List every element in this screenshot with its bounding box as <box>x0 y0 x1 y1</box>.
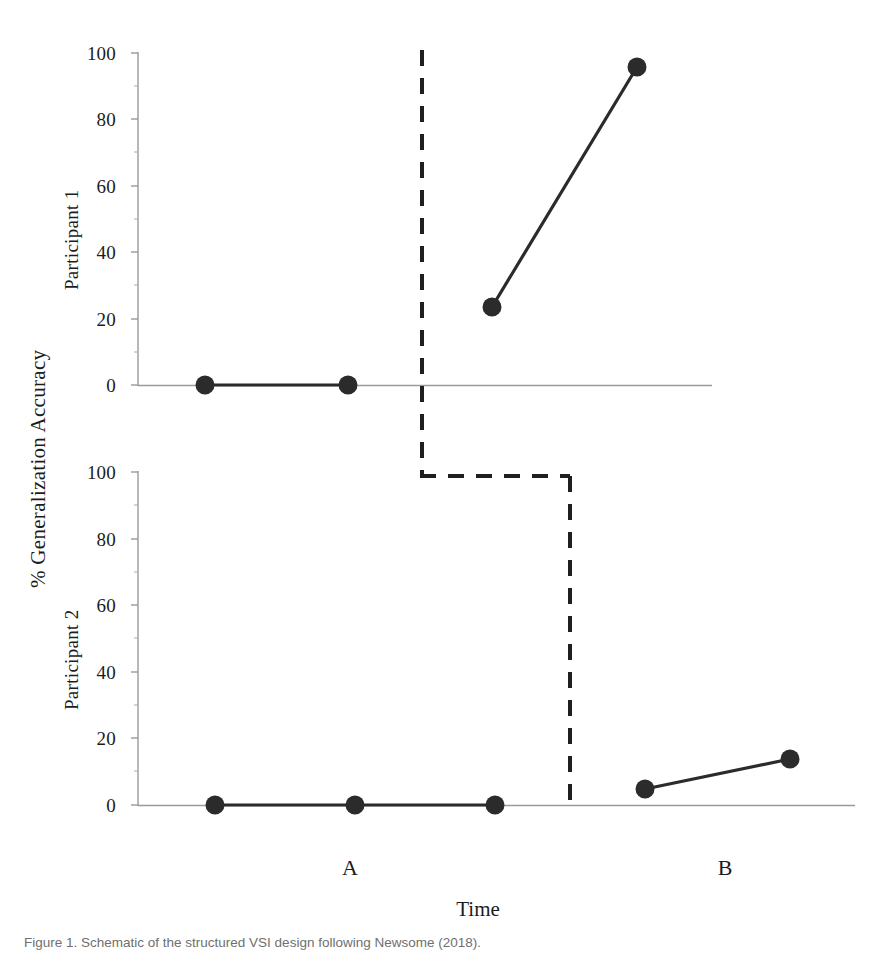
panel-title-participant-1: Participant 1 <box>62 190 81 290</box>
phase-change-line <box>420 50 570 806</box>
y-tick-p2-100: 100 <box>70 463 116 482</box>
y-tick-p2-80: 80 <box>70 530 116 549</box>
data-point-p2-a2 <box>346 796 365 815</box>
y-tick-p1-0: 0 <box>70 376 116 395</box>
y-tick-p1-100: 100 <box>70 44 116 63</box>
data-point-p2-a1 <box>206 796 225 815</box>
data-point-p1-b2 <box>628 58 647 77</box>
y-tick-p1-20: 20 <box>70 310 116 329</box>
data-point-p2-a3 <box>486 796 505 815</box>
data-line-p2-phase-b <box>645 759 790 789</box>
data-point-p2-b2 <box>781 750 800 769</box>
data-point-p2-b1 <box>636 780 655 799</box>
panel-participant-2 <box>131 471 855 815</box>
y-tick-p2-20: 20 <box>70 729 116 748</box>
x-axis-title: Time <box>428 899 528 920</box>
data-point-p1-a1 <box>196 376 215 395</box>
chart-canvas <box>0 0 892 959</box>
y-tick-p2-0: 0 <box>70 796 116 815</box>
phase-label-b: B <box>705 857 745 878</box>
phase-label-a: A <box>330 857 370 878</box>
data-point-p1-b1 <box>483 298 502 317</box>
figure-root: 100 80 60 40 20 0 100 80 60 40 20 0 Part… <box>0 0 892 959</box>
y-tick-p1-80: 80 <box>70 110 116 129</box>
figure-caption: Figure 1. Schematic of the structured VS… <box>24 934 764 957</box>
y-axis-title: % Generalization Accuracy <box>28 350 49 588</box>
panel-title-participant-2: Participant 2 <box>62 610 81 710</box>
data-line-p1-phase-b <box>492 67 637 307</box>
data-point-p1-a2 <box>339 376 358 395</box>
